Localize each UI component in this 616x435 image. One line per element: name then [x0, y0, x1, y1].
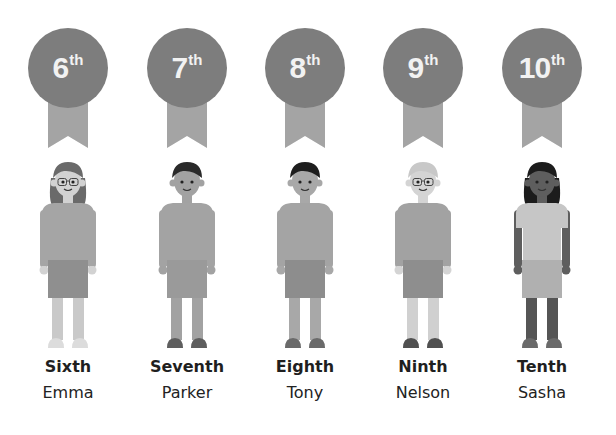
medal-number: 6 [53, 51, 69, 85]
ordinal-label: Seventh [128, 357, 246, 376]
ordinal-label: Tenth [483, 357, 601, 376]
ordinal-label: Sixth [9, 357, 127, 376]
medal-suffix: th [424, 51, 438, 68]
medal-badge: 6th [28, 28, 108, 108]
medal-number: 9 [408, 51, 424, 85]
child-figure-icon [246, 158, 364, 353]
name-label: Parker [128, 383, 246, 402]
name-label: Sasha [483, 383, 601, 402]
place-column: 7th Seventh Parker [128, 0, 246, 435]
medal-badge: 7th [147, 28, 227, 108]
place-column: 8th Eighth Tony [246, 0, 364, 435]
child-figure-icon [483, 158, 601, 353]
place-column: 6th Sixth Emma [9, 0, 127, 435]
ordinal-label: Ninth [364, 357, 482, 376]
medal-number: 7 [172, 51, 188, 85]
name-label: Tony [246, 383, 364, 402]
medal-badge: 8th [265, 28, 345, 108]
medal-number: 8 [290, 51, 306, 85]
name-label: Emma [9, 383, 127, 402]
medal-suffix: th [188, 51, 202, 68]
child-figure-icon [364, 158, 482, 353]
medal-suffix: th [306, 51, 320, 68]
name-label: Nelson [364, 383, 482, 402]
place-column: 9th Ninth Nelson [364, 0, 482, 435]
medal-number: 10 [519, 51, 550, 85]
medal-suffix: th [551, 51, 565, 68]
child-figure-icon [9, 158, 127, 353]
medal-badge: 9th [383, 28, 463, 108]
medal-badge: 10th [502, 28, 582, 108]
ordinal-label: Eighth [246, 357, 364, 376]
child-figure-icon [128, 158, 246, 353]
medal-suffix: th [69, 51, 83, 68]
place-column: 10th Tenth Sasha [483, 0, 601, 435]
